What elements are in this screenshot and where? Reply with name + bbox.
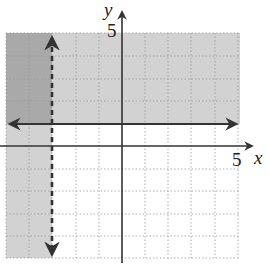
x-tick-label-5: 5 (232, 149, 242, 170)
x-axis-label: x (253, 147, 263, 168)
y-axis-label: y (102, 0, 113, 20)
y-tick-label-5: 5 (107, 20, 117, 41)
inequality-graph: y 5 5 x (0, 0, 268, 267)
